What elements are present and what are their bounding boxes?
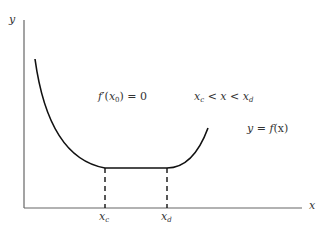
derivative-annotation: f′(x0) = 0 bbox=[98, 91, 147, 104]
x-axis-label: x bbox=[309, 200, 315, 211]
interval-annotation: xc < x < xd bbox=[194, 91, 254, 104]
y-axis-label: y bbox=[9, 14, 15, 25]
function-curve bbox=[35, 59, 208, 168]
tick-label-xc: xc bbox=[99, 211, 109, 224]
tick-label-xd: xd bbox=[161, 211, 172, 224]
function-label: y = f(x) bbox=[247, 123, 288, 134]
diagram-canvas bbox=[0, 0, 331, 231]
